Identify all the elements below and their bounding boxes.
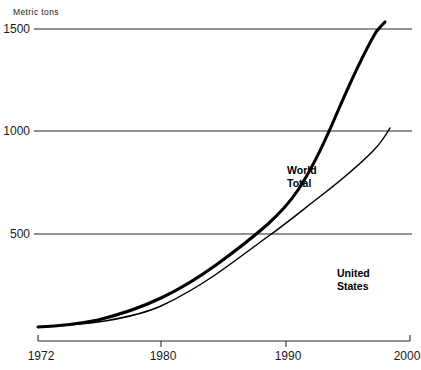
y-tick-label-1000: 1000 [3, 124, 30, 138]
x-tick-label-1990: 1990 [275, 349, 302, 363]
y-tick-label-1500: 1500 [3, 22, 30, 36]
y-axis-unit-label: Metric tons [13, 7, 59, 17]
series-label-world-total-line1: World [287, 164, 317, 176]
series-label-united-states-line2: States [337, 280, 369, 292]
line-chart: Metric tons 1500 1000 500 World Total [0, 0, 421, 370]
series-label-united-states-line1: United [337, 267, 370, 279]
x-tick-label-1980: 1980 [150, 349, 177, 363]
series-label-world-total: World Total [287, 164, 317, 189]
x-tick-label-2000: 2000 [394, 349, 421, 363]
chart-container: Metric tons 1500 1000 500 World Total [0, 0, 421, 370]
series-label-united-states: United States [337, 267, 370, 292]
y-tick-label-500: 500 [10, 227, 30, 241]
series-label-world-total-line2: Total [287, 177, 311, 189]
series-line-united-states [38, 128, 390, 327]
x-axis [38, 335, 410, 347]
x-tick-label-1972: 1972 [28, 349, 55, 363]
series-line-world-total [38, 22, 385, 327]
